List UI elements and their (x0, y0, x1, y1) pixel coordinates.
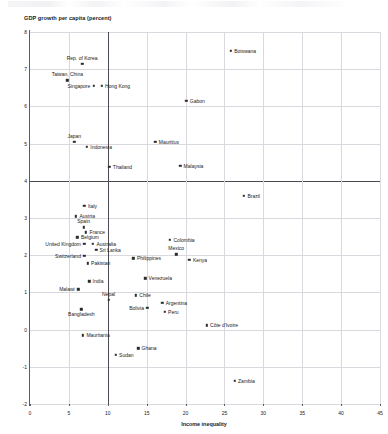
x-axis-tick-mark (302, 404, 303, 406)
y-axis-title: GDP growth per capita (percent) (24, 15, 112, 21)
data-point-label: Mauritius (159, 139, 179, 144)
plot-area: -2-1012345678051015202530354045Rep. of K… (30, 32, 380, 404)
gridline-horizontal (30, 32, 380, 33)
data-point-label: Italy (88, 204, 97, 209)
data-point[interactable] (100, 85, 102, 87)
data-point[interactable] (82, 226, 84, 228)
data-point[interactable] (188, 258, 190, 260)
x-axis-tick-label: 5 (67, 410, 70, 416)
data-point[interactable] (154, 141, 156, 143)
data-point[interactable] (132, 257, 134, 259)
data-point-label: Brazil (247, 193, 260, 198)
data-point[interactable] (86, 145, 88, 147)
data-point-label: Zambia (238, 378, 255, 383)
data-point-label: Philippines (137, 256, 161, 261)
x-axis-tick-mark (380, 404, 381, 406)
data-point[interactable] (175, 253, 177, 255)
data-point[interactable] (146, 307, 148, 309)
data-point[interactable] (83, 255, 85, 257)
data-point-label: India (93, 279, 104, 284)
data-point[interactable] (83, 205, 85, 207)
gridline-horizontal (30, 144, 380, 145)
data-point[interactable] (77, 288, 79, 290)
gridline-vertical (380, 32, 381, 404)
data-point[interactable] (76, 236, 78, 238)
data-point-label: Nepal (102, 292, 115, 297)
data-point[interactable] (108, 165, 110, 167)
data-point[interactable] (88, 280, 90, 282)
data-point[interactable] (229, 49, 231, 51)
data-point[interactable] (80, 308, 82, 310)
y-axis-tick-label: 6 (24, 103, 27, 109)
data-point[interactable] (233, 380, 235, 382)
data-point[interactable] (161, 302, 163, 304)
data-point-label: Botswana (234, 48, 256, 53)
x-axis-tick-mark (186, 404, 187, 406)
gridline-horizontal (30, 69, 380, 70)
x-axis-tick-label: 20 (183, 410, 189, 416)
data-point-label: Gabon (190, 98, 205, 103)
gridline-horizontal (30, 292, 380, 293)
y-axis-tick-label: 8 (24, 29, 27, 35)
data-point[interactable] (144, 277, 146, 279)
data-point-label: Côte d'Ivoire (210, 323, 238, 328)
x-axis-tick-mark (147, 404, 148, 406)
data-point-label: Spain (77, 219, 90, 224)
x-axis-tick-label: 45 (377, 410, 383, 416)
x-axis-tick-label: 40 (338, 410, 344, 416)
gridline-vertical (186, 32, 187, 404)
data-point[interactable] (185, 100, 187, 102)
data-point-label: Peru (168, 309, 179, 314)
data-point-label: Indonesia (90, 144, 112, 149)
data-point[interactable] (169, 238, 171, 240)
data-point[interactable] (137, 347, 139, 349)
data-point-label: Malawi (59, 287, 75, 292)
y-axis-tick-label: 4 (24, 178, 27, 184)
x-axis-tick-mark (341, 404, 342, 406)
data-point[interactable] (95, 248, 97, 250)
scatter-chart-figure: GDP growth per capita (percent) -2-10123… (0, 0, 388, 434)
data-point-label: Mauritania (86, 333, 109, 338)
data-point-label: Taiwan, China (52, 72, 83, 77)
data-point-label: Mexico (168, 246, 184, 251)
x-axis-tick-label: 10 (105, 410, 111, 416)
data-point[interactable] (114, 354, 116, 356)
y-axis-tick-label: 7 (24, 66, 27, 72)
data-point[interactable] (66, 79, 68, 81)
data-point-label: Colombia (174, 237, 195, 242)
x-axis-ticks: 051015202530354045 (30, 404, 380, 418)
data-point[interactable] (179, 165, 181, 167)
data-point[interactable] (82, 334, 84, 336)
x-axis-tick-label: 0 (29, 410, 32, 416)
data-point[interactable] (75, 215, 77, 217)
gridline-vertical (341, 32, 342, 404)
y-axis-tick-label: -2 (23, 401, 27, 407)
data-point-label: Belgium (81, 235, 99, 240)
data-point[interactable] (243, 194, 245, 196)
data-point[interactable] (163, 311, 165, 313)
data-point[interactable] (86, 262, 88, 264)
data-point-label: Ghana (142, 346, 157, 351)
data-point-label: Sri Lanka (100, 247, 121, 252)
data-point[interactable] (92, 243, 94, 245)
data-point[interactable] (81, 62, 83, 64)
data-point[interactable] (107, 299, 109, 301)
data-point[interactable] (205, 324, 207, 326)
x-axis-tick-label: 30 (261, 410, 267, 416)
y-axis-tick-label: 5 (24, 141, 27, 147)
data-point-label: Singapore (67, 83, 90, 88)
x-axis-tick-mark (263, 404, 264, 406)
data-point[interactable] (135, 294, 137, 296)
gridline-vertical (302, 32, 303, 404)
data-point-label: Rep. of Korea (67, 56, 98, 61)
data-point[interactable] (93, 85, 95, 87)
x-axis-tick-mark (69, 404, 70, 406)
data-point[interactable] (83, 243, 85, 245)
y-axis-tick-label: -1 (23, 364, 27, 370)
gridline-horizontal (30, 181, 380, 182)
data-point-label: Venezuela (149, 276, 172, 281)
data-point-label: Bolivia (129, 306, 144, 311)
y-axis-tick-label: 1 (24, 289, 27, 295)
data-point[interactable] (73, 141, 75, 143)
data-point-label: Hong Kong (105, 83, 130, 88)
